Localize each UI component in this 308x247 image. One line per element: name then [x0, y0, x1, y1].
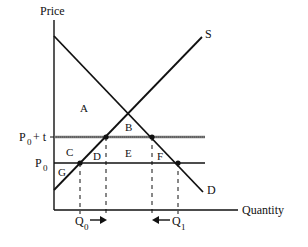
arrowhead-left-icon: [152, 216, 159, 224]
svg-text:Q: Q: [172, 214, 181, 228]
tariff-diagram: Price Quantity S D P 0 + t P 0 Q 0: [0, 0, 308, 247]
region-d: D: [93, 150, 101, 162]
label-q0: Q 0: [75, 214, 107, 232]
svg-text:0: 0: [84, 222, 89, 232]
svg-text:+ t: + t: [33, 130, 47, 144]
svg-text:Q: Q: [75, 214, 84, 228]
demand-label: D: [207, 183, 216, 197]
y-axis-label: Price: [40, 4, 65, 18]
supply-label: S: [205, 27, 212, 41]
arrowhead-right-icon: [100, 216, 107, 224]
label-p0-plus-t: P 0 + t: [19, 130, 47, 147]
label-q1: Q 1: [152, 214, 186, 232]
svg-text:P: P: [19, 130, 26, 144]
region-b: B: [125, 121, 132, 133]
region-f: F: [157, 150, 163, 162]
region-c: C: [66, 146, 73, 158]
svg-text:0: 0: [27, 137, 32, 147]
region-e: E: [125, 147, 132, 159]
svg-text:0: 0: [43, 163, 48, 173]
svg-text:P: P: [35, 156, 42, 170]
svg-text:1: 1: [181, 222, 186, 232]
label-p0: P 0: [35, 156, 48, 173]
region-g: G: [58, 166, 66, 178]
x-axis-label: Quantity: [242, 203, 284, 217]
region-a: A: [80, 102, 88, 114]
